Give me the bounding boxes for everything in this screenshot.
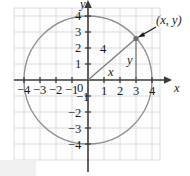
y-tick-label-1: 1 — [75, 57, 81, 71]
coordinate-plane-figure: (x, y) 4 x y x y 0 −4 −3 −2 −1 1 2 3 4 4… — [0, 0, 190, 176]
vertical-leg-label: y — [125, 53, 133, 67]
corner-block — [0, 160, 36, 176]
point-marker — [133, 36, 138, 41]
y-tick-label-2: 2 — [75, 41, 81, 55]
x-tick-label-4: 4 — [149, 84, 156, 98]
x-tick-label-neg2: −2 — [49, 83, 62, 97]
y-tick-label-neg3: −3 — [68, 122, 81, 136]
point-label: (x, y) — [156, 13, 182, 27]
y-tick-label-neg2: −2 — [68, 106, 81, 120]
horizontal-leg-label: x — [107, 65, 114, 79]
graph-canvas: (x, y) 4 x y x y 0 −4 −3 −2 −1 1 2 3 4 4… — [0, 0, 190, 176]
x-tick-label-1: 1 — [101, 84, 107, 98]
y-tick-label-4: 4 — [75, 9, 82, 23]
y-tick-label-neg4: −4 — [68, 138, 82, 152]
x-tick-label-neg3: −3 — [33, 83, 46, 97]
x-axis-label: x — [173, 81, 180, 95]
y-tick-label-neg1: −1 — [76, 90, 89, 104]
radius-label: 4 — [100, 42, 107, 56]
y-tick-label-3: 3 — [75, 25, 81, 39]
x-tick-label-3: 3 — [133, 84, 139, 98]
x-tick-label-neg4: −4 — [17, 83, 31, 97]
x-tick-label-2: 2 — [117, 84, 123, 98]
